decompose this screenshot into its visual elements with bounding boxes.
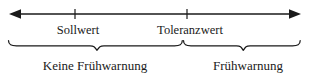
- label-fruehwarnung: Frühwarnung: [213, 59, 283, 72]
- left-arrowhead-icon: [9, 9, 21, 19]
- right-brace-path: [184, 41, 301, 51]
- right-arrowhead-icon: [289, 9, 301, 19]
- threshold-range-diagram: Sollwert Toleranzwert Keine Frühwarnung …: [0, 0, 309, 78]
- brace-keine-fruehwarnung: [9, 41, 183, 51]
- label-toleranzwert: Toleranzwert: [157, 24, 223, 37]
- label-keine-fruehwarnung: Keine Frühwarnung: [43, 59, 147, 72]
- axis-group: [9, 9, 301, 19]
- label-sollwert: Sollwert: [57, 24, 99, 37]
- brace-fruehwarnung: [184, 41, 301, 51]
- left-brace-path: [9, 41, 183, 51]
